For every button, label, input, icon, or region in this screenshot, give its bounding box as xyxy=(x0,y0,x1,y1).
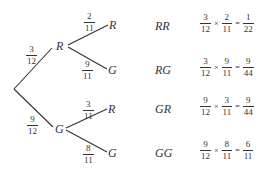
prob-first-R: 3 12 xyxy=(26,45,37,66)
outcome-equation-RG: 312 × 911 = 944 xyxy=(200,57,254,78)
prob-first-G: 9 12 xyxy=(27,115,38,136)
prob-G-G: 8 11 xyxy=(83,144,94,165)
leaf-GG: G xyxy=(108,147,117,159)
outcome-equation-GR: 912 × 311 = 944 xyxy=(200,96,254,117)
leaf-GR: R xyxy=(108,103,115,115)
outcome-label-RR: RR xyxy=(155,20,170,32)
node-G: G xyxy=(55,123,64,135)
outcome-equation-RR: 312 × 211 = 122 xyxy=(200,13,254,34)
leaf-RG: G xyxy=(108,64,117,76)
outcome-label-GR: GR xyxy=(155,103,171,115)
prob-G-R: 3 11 xyxy=(83,100,94,121)
prob-R-R: 2 11 xyxy=(84,12,95,33)
outcome-label-GG: GG xyxy=(155,147,172,159)
node-R: R xyxy=(56,40,63,52)
outcome-equation-GG: 912 × 811 = 611 xyxy=(200,140,253,161)
leaf-RR: R xyxy=(109,19,116,31)
outcome-label-RG: RG xyxy=(155,64,171,76)
prob-R-G: 9 11 xyxy=(82,60,93,81)
